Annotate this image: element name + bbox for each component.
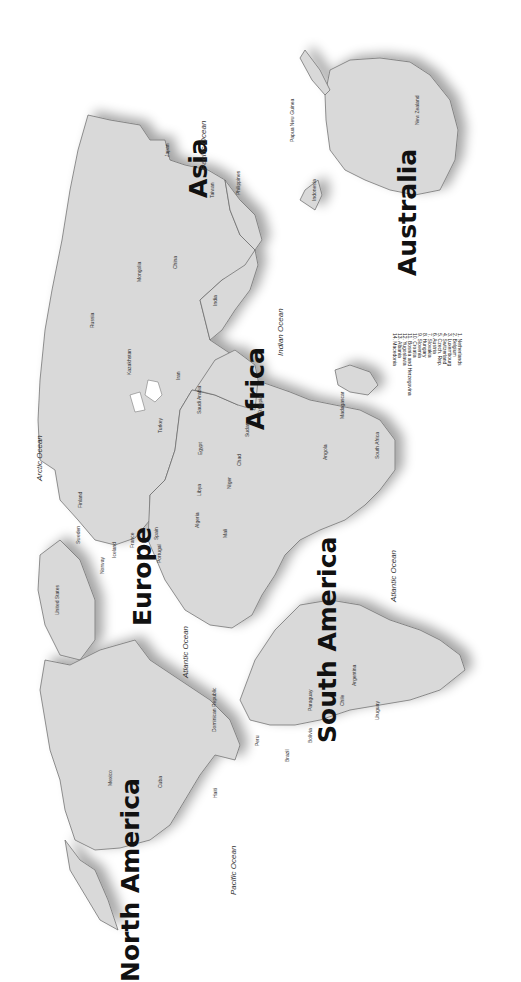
country-label-sudan: Sudan [245, 423, 250, 437]
country-label-chad: Chad [237, 454, 242, 466]
country-label-indonesia: Indonesia [312, 179, 317, 201]
country-label-papua-new-guinea: Papua New Guinea [290, 98, 295, 141]
country-label-south-africa: South Africa [375, 432, 380, 459]
country-label-new-zealand: New Zealand [415, 95, 420, 124]
country-label-algeria: Algeria [195, 512, 200, 528]
country-label-japan: Japan [165, 143, 170, 157]
country-label-bolivia: Chile [340, 694, 345, 705]
ocean-label-pacific-west: Pacific Ocean [230, 845, 238, 894]
country-label-colombia: Peru [255, 735, 260, 746]
country-label-ireland: Iceland [112, 542, 117, 558]
country-label-turkey: Turkey [158, 417, 163, 432]
ocean-label-indian: Indian Ocean [277, 308, 285, 356]
country-label-ethiopia: Ethiopia [258, 396, 263, 414]
country-label-iran: Iran [176, 371, 181, 380]
landmass-new-zealand [300, 50, 330, 95]
continent-label-africa: Africa [243, 347, 268, 430]
landmass-africa [148, 380, 395, 628]
country-label-india: India [213, 295, 218, 306]
country-label-saudi-arabia: Saudi Arabia [197, 386, 202, 414]
country-label-france: France [130, 532, 135, 548]
country-label-greenland: United States [55, 585, 60, 615]
continent-label-south-america: South America [315, 537, 340, 743]
ocean-label-pacific-east: Pacific Ocean [200, 120, 208, 169]
country-label-taiwan: Taiwan [210, 182, 215, 198]
country-label-cuba: Dominican Republic [212, 688, 217, 732]
country-label-china: China [173, 255, 178, 268]
continent-label-north-america: North America [118, 778, 143, 982]
landmass-greenland [38, 540, 95, 660]
country-label-brazil: Paraguay [308, 689, 313, 710]
country-label-libya: Libya [197, 484, 202, 496]
ocean-label-arctic: Arctic Ocean [36, 435, 44, 481]
country-label-kazakhstan: Kazakhstan [127, 349, 132, 375]
country-label-united-states: Cuba [158, 776, 163, 788]
country-label-chile: Uruguay [375, 701, 380, 720]
country-label-iceland: Sweden [76, 526, 81, 544]
map-legend: 1. Netherlands 2. Belgium 3. Luxembourg … [408, 333, 468, 428]
country-label-mongolia: Mongolia [137, 262, 142, 282]
landmass-australia [325, 58, 458, 195]
landmass-alaska [65, 840, 118, 930]
country-label-niger: Niger [227, 477, 232, 489]
country-label-mexico: Haiti [213, 788, 218, 798]
country-label-paraguay: Argentina [352, 664, 357, 685]
country-label-portugal: Portugal [157, 544, 162, 563]
country-label-angola: Angola [323, 444, 328, 460]
legend-item: 14. Macedonia [392, 333, 398, 366]
country-label-egypt: Egypt [198, 442, 203, 455]
ocean-label-atlantic-north: Atlantic Ocean [182, 626, 190, 678]
country-label-philippines: Philippines [236, 171, 241, 195]
country-label-canada: Mexico [108, 770, 113, 786]
continent-label-australia: Australia [395, 148, 420, 275]
country-label-ecuador: Brazil [285, 749, 290, 762]
country-label-peru: Bolivia [308, 728, 313, 743]
country-label-norway: Finland [78, 492, 83, 508]
ocean-label-atlantic-south: Atlantic Ocean [390, 550, 398, 602]
landmass-south-america [240, 600, 465, 725]
country-label-spain: Spain [154, 527, 159, 540]
country-label-madagascar: Madagascar [340, 391, 345, 419]
country-label-russia: Russia [90, 312, 95, 327]
country-label-united-kingdom: Norway [100, 557, 105, 574]
country-label-mali: Mali [223, 528, 228, 537]
